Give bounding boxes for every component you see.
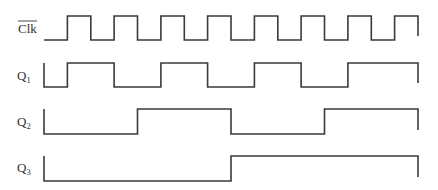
signal-q2: Q2: [17, 109, 418, 134]
label-q1: Q1: [17, 68, 31, 85]
signal-q3: Q3: [17, 156, 418, 181]
waveform-q1: [44, 63, 418, 87]
label-clk-bar: Clk: [18, 21, 37, 36]
signal-clk-bar: Clk: [18, 16, 418, 40]
label-q2: Q2: [17, 114, 31, 131]
label-q3: Q3: [17, 160, 31, 177]
timing-diagram: Clk Q1 Q2 Q3: [0, 0, 438, 190]
waveform-clk-bar: [44, 16, 418, 40]
waveform-q3: [44, 156, 418, 181]
waveform-q2: [44, 109, 418, 134]
signal-q1: Q1: [17, 63, 418, 87]
